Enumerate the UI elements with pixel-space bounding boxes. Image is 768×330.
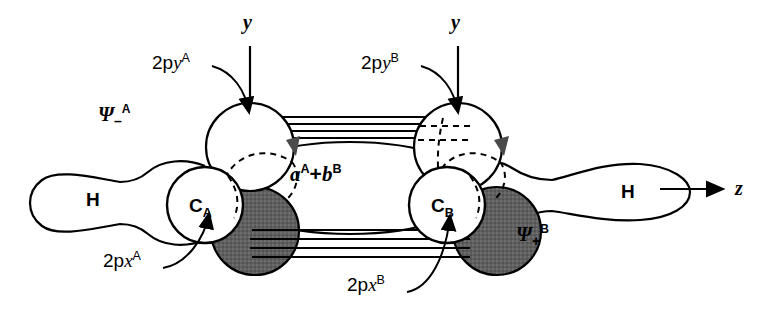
orbital-2px-b-base: 2p — [347, 274, 368, 295]
y-axis-left-label: y — [243, 12, 252, 32]
atom-label-carbon-a: CA — [189, 196, 212, 219]
carbon-b-subscript: B — [445, 206, 454, 220]
orbital-2px-b-sup: B — [377, 273, 385, 287]
orbital-2py-b-sup: B — [391, 51, 399, 65]
orbital-label-2py-b: 2pyB — [361, 52, 399, 72]
psi-a-sup: A — [122, 102, 131, 116]
orbital-label-2px-b: 2pxB — [347, 274, 385, 294]
y-axis-right-label: y — [451, 12, 460, 32]
orbital-2px-a-sup: A — [133, 249, 141, 263]
wavefunction-label-psi-plus-b: Ψ+B — [516, 223, 549, 248]
z-axis-label: z — [735, 178, 743, 198]
orbital-2py-b-base: 2p — [361, 52, 382, 73]
psi-a-sub: – — [114, 113, 122, 129]
combination-operator: + — [310, 162, 322, 185]
carbon-b-symbol: C — [431, 195, 445, 216]
orbital-label-2py-a: 2pyA — [152, 52, 190, 72]
atom-label-hydrogen-right: H — [621, 182, 635, 201]
orbital-2py-a-var: y — [173, 52, 181, 73]
psi-a-symbol: Ψ — [98, 103, 114, 125]
combination-left-term: a — [290, 162, 301, 186]
orbital-2px-a-var: x — [124, 250, 132, 271]
carbon-a-symbol: C — [189, 195, 203, 216]
psi-b-sup: B — [540, 222, 549, 236]
atom-label-hydrogen-left: H — [86, 190, 100, 209]
combination-left-sup: A — [301, 162, 310, 176]
orbital-label-2px-a: 2pxA — [103, 250, 141, 270]
atom-label-carbon-b: CB — [431, 196, 454, 219]
orbital-2py-a-base: 2p — [152, 52, 173, 73]
orbital-2py-a-sup: A — [182, 51, 190, 65]
combination-right-term: b — [322, 162, 333, 186]
combination-right-sup: B — [332, 162, 341, 176]
orbital-2px-b-var: x — [368, 274, 376, 295]
carbon-a-subscript: A — [203, 206, 212, 220]
psi-b-symbol: Ψ — [516, 223, 532, 245]
orbital-2px-a-base: 2p — [103, 250, 124, 271]
orbital-combination-label: aA+bB — [290, 163, 341, 185]
orbital-diagram-figure: y y z 2pyA 2pyB 2pxA 2pxB Ψ–A Ψ+B aA+bB … — [0, 0, 768, 330]
wavefunction-label-psi-minus-a: Ψ–A — [98, 103, 130, 128]
psi-b-sub: + — [532, 233, 540, 249]
orbital-2py-b-var: y — [382, 52, 390, 73]
